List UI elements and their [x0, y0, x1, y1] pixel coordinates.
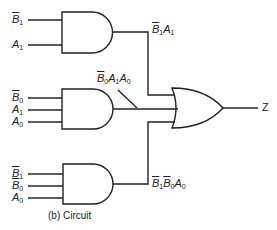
and-gate-2 — [62, 89, 113, 129]
or-gate — [172, 88, 223, 128]
circuit-diagram: B1 A1 B1A1 B0A1A0 B0 A1 A0 B1 B0 A0 B1B0… — [0, 0, 277, 230]
term-label-b1b0a0: B1B0A0 — [152, 178, 186, 190]
and-gate-3 — [63, 164, 113, 204]
and-gate-1 — [62, 12, 113, 53]
input-label-g3-a0: A0 — [12, 192, 23, 204]
output-label-z: Z — [262, 102, 269, 113]
input-label-g1-b1: B1 — [12, 14, 23, 26]
input-label-g1-a1: A1 — [12, 39, 23, 51]
input-label-g2-a0: A0 — [12, 116, 23, 128]
term-label-b1a1: B1A1 — [152, 24, 175, 36]
circuit-wiring — [0, 0, 277, 230]
term-label-b0a1a0: B0A1A0 — [97, 73, 131, 85]
figure-caption: (b) Circuit — [48, 210, 91, 221]
